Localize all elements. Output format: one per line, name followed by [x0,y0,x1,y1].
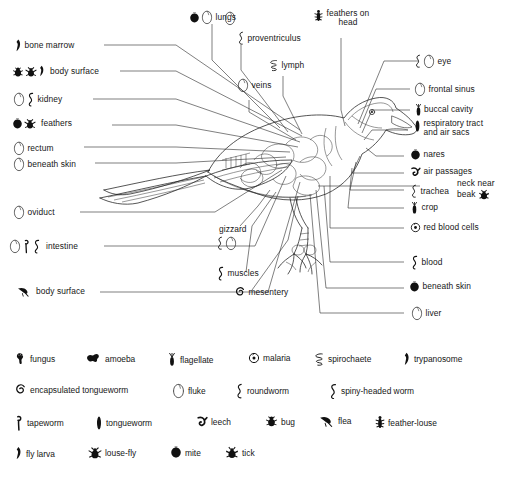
label-buccal-cavity[interactable]: buccal cavity [414,103,475,117]
mite-icon [410,149,421,161]
label-lymph[interactable]: lymph [268,59,307,72]
legend-item-spiny-headed-worm[interactable]: spiny-headed worm [328,383,414,399]
label-feathers[interactable]: feathers [12,118,74,130]
legend-item-leech[interactable]: leech [196,415,231,428]
legend-item-malaria[interactable]: malaria [248,352,290,364]
legend-item-spirochaete[interactable]: spirochaete [313,352,371,366]
label-text: kidney [35,95,65,105]
icon-group [268,59,279,72]
fluke-icon [237,78,249,93]
fly-larva-icon [38,65,45,78]
spiny-headed-worm-icon [328,383,338,399]
icon-group [16,286,31,297]
mite-icon [12,118,23,130]
label-oviduct[interactable]: oviduct [13,205,57,220]
legend-label: malaria [260,353,290,363]
tapeworm-icon [22,239,31,254]
icon-group [410,255,419,270]
legend-item-louse-fly[interactable]: louse-fly [88,446,136,460]
roundworm-icon [237,31,245,46]
tick-icon [225,446,239,460]
legend-label: encapsulated tongueworm [27,385,128,395]
label-proventriculus[interactable]: proventriculus [224,31,303,46]
legend-panel: fungus amoeba flagellate malaria spiroch… [0,336,516,478]
fluke-icon [225,236,237,251]
icon-group [410,201,419,215]
malaria-icon [410,222,421,233]
label-beneath-skin-right[interactable]: beneath skin [409,281,473,293]
label-blood[interactable]: blood [410,255,445,270]
bug-icon [12,66,24,78]
label-liver[interactable]: liver [411,306,444,321]
icon-group [216,266,225,281]
label-kidney[interactable]: kidney [13,92,65,107]
label-text: frontal sinus [426,85,477,95]
legend-item-encapsulated-tongueworm[interactable]: encapsulated tongueworm [14,383,128,397]
label-neck-near: neck near [457,179,497,189]
label-rectum[interactable]: rectum [13,141,56,156]
label-air-passages[interactable]: air passages [410,166,474,178]
label-feathers-on-head[interactable]: feathers on head [314,9,372,27]
legend-item-flea[interactable]: flea [318,415,352,427]
legend-item-tongueworm[interactable]: tongueworm [95,415,152,431]
legend-label: trypanosome [411,354,462,364]
fluke-icon [423,54,435,69]
icon-group [237,78,249,93]
label-trachea[interactable]: trachea [410,184,452,199]
icon-group [224,31,245,46]
flea-icon [16,286,31,297]
label-red-blood-cells[interactable]: red blood cells [410,222,481,233]
label-text: body surface [31,287,87,297]
icon-group [414,82,426,97]
legend-item-trypanosome[interactable]: trypanosome [402,352,462,366]
icon-group [216,236,237,251]
fly-larva-icon [14,446,23,461]
label-gizzard[interactable]: gizzard [219,225,249,235]
legend-item-bug[interactable]: bug [265,415,295,428]
legend-label: tick [239,448,255,458]
legend-item-fungus[interactable]: fungus [14,352,55,365]
label-gizzard-icons [216,236,237,251]
label-intestine[interactable]: intestine [9,239,80,254]
icon-group [411,306,423,321]
roundworm-icon [410,184,418,199]
legend-item-feather-louse[interactable]: feather-louse [375,415,437,430]
label-muscles[interactable]: muscles [216,266,261,281]
label-bone-marrow[interactable]: bone marrow [14,39,77,52]
label-body-surface-bottom[interactable]: body surface [16,286,87,297]
diagram-canvas: bone marrow body surface kidney feathers… [0,0,516,478]
feather-louse-icon [375,415,385,430]
label-crop[interactable]: crop [410,201,441,215]
label-text-line2: and air sacs [421,127,472,137]
spirochaete-icon [268,59,279,72]
label-veins[interactable]: veins [237,78,274,93]
legend-item-flagellate[interactable]: flagellate [167,352,214,367]
tongueworm-icon [414,119,421,133]
legend-item-amoeba[interactable]: amoeba [85,352,135,365]
label-text: crop [419,203,441,213]
roundworm-icon [414,54,422,69]
spiny-headed-worm-icon [410,255,419,270]
label-text: lymph [279,61,307,71]
legend-item-fluke[interactable]: fluke [172,383,206,399]
label-beneath-skin-left[interactable]: beneath skin [13,157,78,172]
label-respiratory-tract[interactable]: respiratory tract and air sacs [414,119,486,137]
label-text: blood [419,258,445,268]
flagellate-icon [167,352,177,367]
label-body-surface-top[interactable]: body surface [12,65,101,78]
label-mesentery[interactable]: mesentery [234,286,291,299]
legend-label: spiny-headed worm [338,386,414,396]
legend-item-fly-larva[interactable]: fly larva [14,446,55,461]
legend-item-tick[interactable]: tick [225,446,255,460]
label-frontal-sinus[interactable]: frontal sinus [414,82,477,97]
icon-group [414,54,435,69]
legend-item-roundworm[interactable]: roundworm [235,383,289,399]
label-nares[interactable]: nares [410,149,447,161]
fungus-icon [14,352,27,365]
legend-item-mite[interactable]: mite [170,446,201,459]
label-eye[interactable]: eye [414,54,454,69]
label-text: veins [249,81,274,91]
legend-item-tapeworm[interactable]: tapeworm [14,415,64,431]
icon-group [13,205,25,220]
legend-label: fluke [185,386,206,396]
